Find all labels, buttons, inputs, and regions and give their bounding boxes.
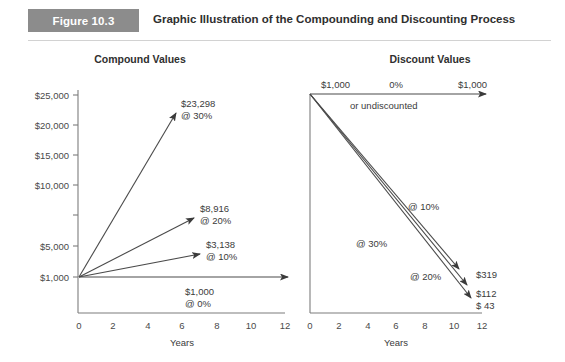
discount-values-chart: $1,000 0% $1,000 or undiscounted @ 10% @… <box>290 45 565 362</box>
compound-series-rate-20: @ 20% <box>200 215 232 226</box>
compound-values-chart: $25,000 $20,000 $15,000 $10,000 $5,000 $… <box>0 45 300 362</box>
discount-x-tick-label: 12 <box>477 320 488 331</box>
compound-x-tick-label: 10 <box>246 320 257 331</box>
discount-series-line-20 <box>310 94 467 285</box>
discount-flat-note: or undiscounted <box>350 100 418 111</box>
discount-x-tick-label: 2 <box>336 320 341 331</box>
discount-series-value-30: $ 43 <box>476 300 495 311</box>
discount-x-tick-label: 10 <box>449 320 460 331</box>
compound-series-value-10: $3,138 <box>206 239 235 250</box>
figure-number-badge: Figure 10.3 <box>28 9 139 32</box>
compound-series-value-30: $23,298 <box>181 98 215 109</box>
compound-y-tick-label: $15,000 <box>35 150 69 161</box>
compound-x-tick-label: 4 <box>145 320 150 331</box>
discount-series-value-10: $319 <box>476 269 497 280</box>
compound-values-panel: Compound Values $25,000 $20,000 $15,000 … <box>0 45 300 362</box>
compound-y-tick-label: $25,000 <box>35 90 69 101</box>
compound-y-tick-label: $10,000 <box>35 180 69 191</box>
compound-x-tick-label: 0 <box>76 320 81 331</box>
discount-x-tick-label: 6 <box>393 320 398 331</box>
compound-y-tick-label: $20,000 <box>35 120 69 131</box>
discount-x-tick-label: 4 <box>365 320 370 331</box>
header-divider <box>28 40 551 41</box>
discount-x-axis-title: Years <box>384 337 408 348</box>
discount-series-line-30 <box>310 94 471 298</box>
discount-values-panel: Discount Values $1,000 0% $1,000 or undi… <box>290 45 565 362</box>
figure-header: Figure 10.3 Graphic Illustration of the … <box>0 0 565 41</box>
compound-y-tick-label: $1,000 <box>40 272 69 283</box>
compound-series-line-10 <box>79 254 200 277</box>
compound-y-tick-label: $5,000 <box>40 241 69 252</box>
compound-x-tick-label: 2 <box>110 320 115 331</box>
discount-start-label: $1,000 <box>321 79 350 90</box>
discount-flat-end-label: $1,000 <box>458 79 487 90</box>
figure-title: Graphic Illustration of the Compounding … <box>153 13 515 25</box>
compound-y-ticks <box>73 95 78 277</box>
discount-series-rate-20: @ 20% <box>410 271 442 282</box>
discount-series-rate-10: @ 10% <box>408 201 440 212</box>
discount-flat-rate-label: 0% <box>389 79 403 90</box>
compound-x-tick-label: 8 <box>214 320 219 331</box>
discount-series-rate-30: @ 30% <box>356 238 388 249</box>
discount-x-tick-label: 0 <box>307 320 312 331</box>
compound-x-tick-label: 6 <box>179 320 184 331</box>
discount-series-value-20: $112 <box>476 288 496 299</box>
compound-x-axis-title: Years <box>170 337 194 348</box>
compound-series-rate-10: @ 10% <box>206 251 238 262</box>
compound-x-tick-label: 12 <box>280 320 291 331</box>
compound-series-value-0: $1,000 <box>185 286 214 297</box>
compound-series-value-20: $8,916 <box>200 203 229 214</box>
compound-series-rate-0: @ 0% <box>185 298 212 309</box>
discount-x-tick-label: 8 <box>422 320 427 331</box>
compound-series-rate-30: @ 30% <box>181 110 213 121</box>
figure-number-label: Figure 10.3 <box>53 15 115 27</box>
